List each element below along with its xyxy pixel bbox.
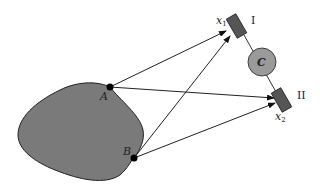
label-x2: x2 xyxy=(275,110,286,124)
label-I: I xyxy=(251,14,255,27)
detector-I xyxy=(226,14,247,39)
diagram-canvas: A B C x1 I x2 II xyxy=(0,0,323,195)
label-A: A xyxy=(99,90,108,103)
label-x1: x1 xyxy=(216,14,227,28)
label-C: C xyxy=(257,56,266,69)
arrow-A-to-I xyxy=(110,31,226,87)
label-B: B xyxy=(122,145,131,158)
point-B xyxy=(131,155,138,162)
label-II: II xyxy=(297,89,306,102)
detector-II xyxy=(271,88,292,113)
arrow-A-to-II xyxy=(110,87,274,98)
source-region xyxy=(18,83,143,181)
